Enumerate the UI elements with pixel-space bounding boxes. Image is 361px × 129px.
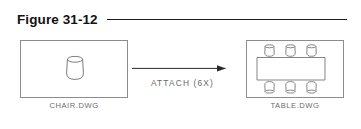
chair-bottom-3 — [307, 82, 316, 94]
chair-top-1 — [265, 45, 274, 57]
table-top — [257, 58, 325, 81]
diagram-canvas: CHAIR.DWG ATTACH (6X) — [0, 0, 361, 129]
chair-drawing-caption: CHAIR.DWG — [20, 101, 128, 110]
chair-top-2 — [286, 45, 295, 57]
attach-operation-label: ATTACH (6X) — [131, 78, 234, 88]
chair-bottom-2 — [286, 82, 295, 94]
chair-bottom-1 — [265, 82, 274, 94]
table-drawing-caption: TABLE.DWG — [246, 101, 344, 110]
chair-top-3 — [307, 45, 316, 57]
table-with-chairs-icon — [256, 44, 334, 94]
attach-arrow-icon — [131, 63, 234, 75]
chair-icon — [64, 55, 86, 81]
